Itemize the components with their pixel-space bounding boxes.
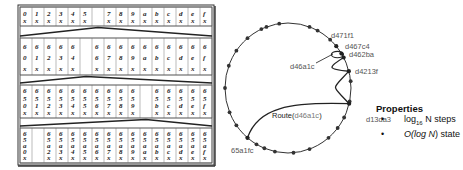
table-cell: x — [190, 154, 195, 162]
ring-node — [342, 116, 346, 120]
table-cell: 3 — [58, 54, 63, 62]
table-cell: x — [166, 109, 171, 117]
id-ring: d471f1d467c4d462bad46a1cd4213fd13da365a1… — [223, 22, 391, 155]
table-cell: x — [178, 154, 183, 162]
table-cell: x — [118, 65, 123, 73]
table-cell: 6 — [143, 43, 147, 51]
table-cell: x — [142, 154, 147, 162]
table-cell: 6 — [95, 54, 99, 62]
table-cell: 6 — [203, 43, 207, 51]
table-cell: 6 — [35, 43, 39, 51]
table-cell: x — [178, 65, 183, 73]
table-cell: x — [82, 154, 87, 162]
table-cell: x — [166, 17, 171, 25]
table-row: 60x61x62x63x64x66x67x68x69x6ax6bx6cx6dx6… — [20, 38, 212, 75]
table-cell: x — [118, 17, 123, 25]
table-cell: x — [154, 109, 159, 117]
ring-node — [327, 136, 331, 140]
node-label-d471f1: d471f1 — [331, 31, 354, 40]
ring-node — [308, 25, 312, 29]
property-state: • O(log N) state — [376, 129, 460, 140]
table-cell: f — [203, 54, 206, 62]
table-cell: 6 — [95, 43, 99, 51]
table-cell: x — [58, 109, 63, 117]
routing-connector — [20, 77, 212, 84]
table-cell: 6 — [155, 43, 159, 51]
table-cell: 0 — [23, 54, 27, 62]
node-label-d4213f: d4213f — [355, 67, 379, 76]
table-cell: x — [166, 65, 171, 73]
table-cell: x — [82, 109, 87, 117]
table-cell: x — [70, 17, 75, 25]
ring-node — [234, 49, 238, 53]
table-cell: x — [202, 154, 207, 162]
table-cell: 7 — [107, 54, 111, 62]
node-label-d462ba: d462ba — [349, 50, 375, 59]
table-cell: x — [58, 154, 63, 162]
table-cell: 6 — [131, 43, 135, 51]
table-cell: x — [190, 65, 195, 73]
table-cell: x — [94, 65, 99, 73]
table-cell: x — [58, 65, 63, 73]
table-cell: x — [94, 109, 99, 117]
ring-node — [259, 27, 263, 31]
table-cell: x — [202, 109, 207, 117]
table-cell: b — [155, 54, 159, 62]
table-cell: 2 — [46, 54, 51, 62]
bullet-icon: • — [381, 114, 384, 125]
node-label-d46a1c: d46a1c — [290, 62, 315, 71]
table-cell: a — [143, 54, 147, 62]
ring-node — [228, 110, 232, 114]
ring-node — [255, 142, 259, 146]
ring-node — [316, 29, 320, 33]
ring-node — [223, 86, 227, 90]
table-cell: d — [179, 54, 183, 62]
table-cell: 6 — [23, 43, 27, 51]
table-cell: x — [106, 65, 111, 73]
table-cell: x — [190, 17, 195, 25]
table-row: 0x1x2x3x4x5x7x8x9xaxbxcxdxexfx — [20, 7, 212, 26]
properties-title: Properties — [376, 103, 460, 114]
table-cell: x — [154, 17, 159, 25]
ring-node — [292, 151, 296, 155]
table-cell: 8 — [119, 54, 123, 62]
table-cell: x — [142, 65, 147, 73]
table-cell: x — [106, 154, 111, 162]
ring-node — [262, 146, 266, 150]
ring-node — [336, 126, 340, 130]
table-cell: x — [202, 17, 207, 25]
table-cell: 6 — [59, 43, 63, 51]
table-cell: x — [154, 65, 159, 73]
table-cell: x — [94, 154, 99, 162]
ring-node — [234, 123, 238, 127]
table-cell: 6 — [47, 43, 51, 51]
table-cell: x — [46, 154, 51, 162]
properties-box: Properties • log16 N steps • O(log N) st… — [376, 103, 460, 140]
routing-connector — [20, 120, 212, 127]
table-cell: 6 — [191, 43, 195, 51]
property-steps-text: N steps — [423, 114, 456, 124]
table-cell: x — [46, 65, 51, 73]
ring-node — [265, 25, 269, 29]
table-cell: x — [82, 17, 87, 25]
table-cell: 6 — [179, 43, 183, 51]
table-cell: c — [167, 54, 170, 62]
property-state-open: O( — [404, 129, 414, 139]
ring-node — [308, 147, 312, 151]
ring-node-d471f1 — [334, 44, 338, 48]
figure-canvas: 0x1x2x3x4x5x7x8x9xaxbxcxdxexfx60x61x62x6… — [0, 0, 463, 170]
pastry-routing-figure: 0x1x2x3x4x5x7x8x9xaxbxcxdxexfx60x61x62x6… — [0, 0, 463, 170]
ring-node — [277, 22, 281, 26]
table-row: 650x651x652x653x654x655x656x657x658x659x… — [20, 85, 212, 118]
ring-node — [227, 64, 231, 68]
ring-node — [349, 79, 353, 83]
table-cell: x — [70, 65, 75, 73]
table-cell: 1 — [35, 54, 39, 62]
routing-table: 0x1x2x3x4x5x7x8x9xaxbxcxdxexfx60x61x62x6… — [18, 5, 215, 166]
property-state-logn: log N — [414, 129, 435, 139]
table-cell: x — [106, 109, 111, 117]
table-cell: x — [46, 17, 51, 25]
table-cell: 6 — [119, 43, 123, 51]
table-cell: x — [22, 109, 27, 117]
property-steps: • log16 N steps — [376, 114, 460, 129]
